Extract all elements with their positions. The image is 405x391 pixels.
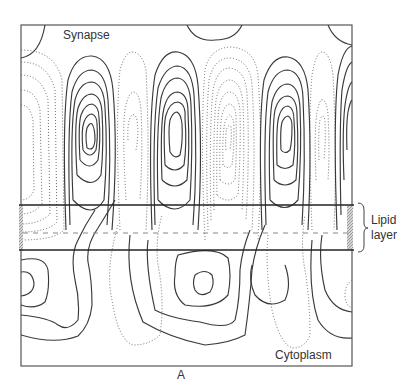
solid-cell-2: [151, 52, 201, 230]
solid-cell-6: [335, 46, 352, 230]
contour-diagram: [0, 0, 405, 391]
dotted-cell-2: [118, 52, 149, 230]
solid-cell-4: [260, 57, 310, 230]
dotted-cell-left: [21, 50, 64, 240]
dotted-cell-3: [203, 47, 261, 240]
panel-label-a: A: [177, 368, 185, 382]
synapse-label: Synapse: [63, 28, 110, 42]
layer-label: layer: [371, 228, 397, 242]
contour-lines: [21, 25, 352, 348]
cytoplasm-label: Cytoplasm: [275, 348, 332, 362]
frame: [21, 25, 352, 366]
lipid-label: Lipid: [371, 213, 396, 227]
solid-cell-1: [64, 56, 115, 230]
lipid-bracket: [358, 203, 368, 252]
dotted-cell-5: [310, 52, 335, 230]
